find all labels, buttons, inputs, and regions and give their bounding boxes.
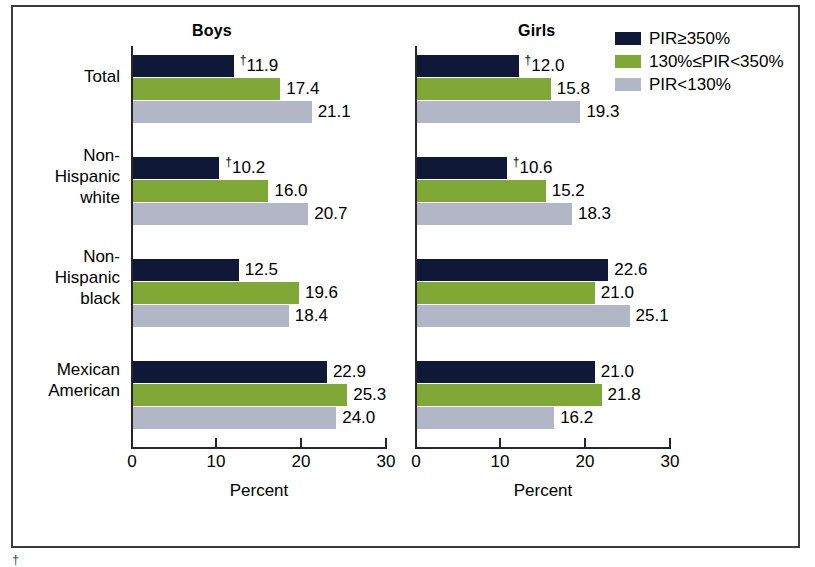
barlabel-boys-nhblack-pir-low: 18.4	[295, 305, 328, 327]
x-axis-title-girls: Percent	[514, 481, 573, 501]
barlabel-boys-total-pir-low: 21.1	[318, 101, 351, 123]
x-tick-10-girls	[499, 438, 501, 449]
category-label-non-hispanic-white: Non- Hispanic white	[10, 145, 120, 208]
category-label-nhblack-line2: Hispanic	[10, 267, 120, 288]
bar-boys-total-pir-low	[133, 101, 312, 123]
bar-boys-nhblack-pir-low	[133, 305, 289, 327]
panel-title-girls: Girls	[518, 22, 555, 40]
barlabel-boys-nhblack-pir-high: 12.5	[245, 259, 278, 281]
bar-girls-total-pir-mid	[417, 78, 551, 100]
barlabel-girls-nhwhite-pir-high: †10.6	[513, 157, 553, 179]
bar-girls-mexican-pir-mid	[417, 384, 602, 406]
bar-girls-mexican-pir-high	[417, 361, 595, 383]
barlabel-girls-total-pir-low: 19.3	[586, 101, 619, 123]
x-ticklabel-0-girls: 0	[411, 452, 420, 472]
legend-label-pir-low: PIR<130%	[649, 74, 731, 95]
x-ticklabel-20-girls: 20	[576, 452, 595, 472]
category-label-nhblack-line3: black	[10, 288, 120, 309]
plot-area-girls: 0 10 20 30 Percent †12.0 15.8 19.3 †10.6…	[415, 46, 677, 456]
dagger-footnote-marker: †	[513, 155, 520, 169]
panel-girls: Girls 0 10 20 30 Percent †12.0 15.8 19.3	[375, 22, 620, 492]
barlabel-boys-total-pir-high: †11.9	[240, 55, 279, 77]
barlabel-girls-nhblack-pir-high: 22.6	[614, 259, 647, 281]
bar-boys-nhblack-pir-mid	[133, 282, 299, 304]
bar-boys-nhwhite-pir-mid	[133, 180, 268, 202]
barlabel-girls-nhblack-pir-mid: 21.0	[601, 282, 634, 304]
x-ticklabel-20-boys: 20	[292, 452, 311, 472]
bar-girls-nhwhite-pir-high	[417, 157, 507, 179]
panel-title-boys: Boys	[192, 22, 232, 40]
dagger-footnote-marker: †	[240, 53, 247, 67]
legend-swatch-pir-low	[615, 78, 641, 91]
x-ticklabel-30-girls: 30	[661, 452, 680, 472]
barlabel-boys-nhwhite-pir-mid: 16.0	[274, 180, 307, 202]
barlabel-girls-total-pir-mid: 15.8	[557, 78, 590, 100]
category-label-total: Total	[10, 66, 120, 87]
chart-figure: Boys Total Non- Hispanic white Non- Hisp…	[0, 0, 815, 567]
bar-girls-nhblack-pir-mid	[417, 282, 595, 304]
bar-boys-nhwhite-pir-high	[133, 157, 219, 179]
bar-girls-nhwhite-pir-mid	[417, 180, 546, 202]
barlabel-boys-mexican-pir-low: 24.0	[342, 407, 375, 429]
barlabel-girls-mexican-pir-low: 16.2	[560, 407, 593, 429]
x-tick-20-girls	[584, 438, 586, 449]
bar-boys-nhwhite-pir-low	[133, 203, 308, 225]
bar-girls-mexican-pir-low	[417, 407, 554, 429]
x-axis-line-boys	[131, 447, 387, 449]
x-axis-title-boys: Percent	[230, 481, 289, 501]
barlabel-girls-nhwhite-pir-low: 18.3	[578, 203, 611, 225]
legend-swatch-pir-high	[615, 32, 641, 45]
category-label-total-line1: Total	[10, 66, 120, 87]
barlabel-boys-mexican-pir-high: 22.9	[333, 361, 366, 383]
category-label-nhwhite-line2: Hispanic	[10, 166, 120, 187]
x-tick-0-boys	[131, 438, 133, 449]
x-ticklabel-10-boys: 10	[207, 452, 226, 472]
barlabel-girls-nhwhite-pir-mid: 15.2	[552, 180, 585, 202]
category-label-mexican-line1: Mexican	[10, 359, 120, 380]
barlabel-boys-nhwhite-pir-low: 20.7	[314, 203, 347, 225]
category-label-nhwhite-line1: Non-	[10, 145, 120, 166]
bar-boys-mexican-pir-mid	[133, 384, 347, 406]
panel-boys: Boys Total Non- Hispanic white Non- Hisp…	[20, 22, 375, 492]
bar-girls-total-pir-high	[417, 55, 519, 77]
legend-label-pir-high: PIR≥350%	[649, 28, 730, 49]
barlabel-girls-mexican-pir-mid: 21.8	[608, 384, 641, 406]
plot-area-boys: 0 10 20 30 Percent †11.9 17.4 21.1 †10.2…	[131, 46, 393, 456]
x-tick-10-boys	[215, 438, 217, 449]
barlabel-girls-total-pir-high: †12.0	[525, 55, 565, 77]
bar-boys-mexican-pir-low	[133, 407, 336, 429]
bar-boys-nhblack-pir-high	[133, 259, 239, 281]
category-label-mexican-american: Mexican American	[10, 359, 120, 401]
bar-girls-nhblack-pir-high	[417, 259, 608, 281]
barlabel-girls-nhblack-pir-low: 25.1	[636, 305, 669, 327]
barlabel-boys-nhwhite-pir-high: †10.2	[225, 157, 265, 179]
bar-girls-total-pir-low	[417, 101, 580, 123]
barlabel-boys-nhblack-pir-mid: 19.6	[305, 282, 338, 304]
barlabel-boys-total-pir-mid: 17.4	[286, 78, 319, 100]
bar-boys-total-pir-high	[133, 55, 234, 77]
bar-boys-total-pir-mid	[133, 78, 280, 100]
legend-label-pir-mid: 130%≤PIR<350%	[649, 51, 784, 72]
x-tick-30-girls	[669, 438, 671, 449]
chart-footnote: †	[12, 552, 802, 567]
x-tick-0-girls	[415, 438, 417, 449]
bar-boys-mexican-pir-high	[133, 361, 327, 383]
x-ticklabel-10-girls: 10	[491, 452, 510, 472]
x-axis-line-girls	[415, 447, 671, 449]
category-label-nhwhite-line3: white	[10, 187, 120, 208]
x-ticklabel-0-boys: 0	[127, 452, 136, 472]
dagger-footnote-marker: †	[525, 53, 532, 67]
category-label-nhblack-line1: Non-	[10, 246, 120, 267]
bar-girls-nhblack-pir-low	[417, 305, 630, 327]
bar-girls-nhwhite-pir-low	[417, 203, 572, 225]
x-tick-20-boys	[300, 438, 302, 449]
legend-swatch-pir-mid	[615, 55, 641, 68]
category-label-mexican-line2: American	[10, 380, 120, 401]
category-label-non-hispanic-black: Non- Hispanic black	[10, 246, 120, 309]
barlabel-girls-mexican-pir-high: 21.0	[601, 361, 634, 383]
dagger-footnote-marker: †	[225, 155, 232, 169]
